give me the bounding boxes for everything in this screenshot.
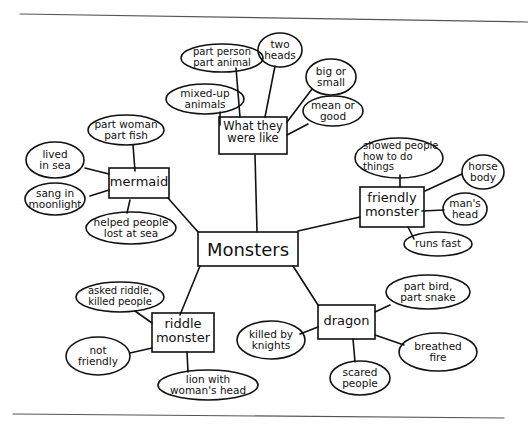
connector-mermaid-3 — [90, 190, 109, 196]
detail-mermaid-4: helped people lost at sea — [86, 217, 176, 239]
detail-friendly-3: man's head — [443, 198, 487, 220]
detail-what-4: big or small — [306, 66, 356, 88]
connector-mermaid-2 — [85, 168, 109, 174]
connector-center-dragon — [293, 266, 318, 305]
top-rule — [20, 14, 528, 22]
detail-mermaid-3: sang in moonlight — [25, 188, 85, 210]
connector-dragon-4 — [353, 339, 355, 362]
detail-dragon-2: killed by knights — [237, 329, 305, 351]
branch-label-what-they-were-like: What they were like — [219, 120, 287, 144]
center-label: Monsters — [198, 241, 298, 260]
bottom-rule — [13, 414, 504, 418]
mind-map-page: Monsters What they were like part person… — [0, 0, 528, 424]
connector-dragon-1 — [375, 305, 390, 312]
detail-riddle-3: lion with woman's head — [158, 374, 258, 396]
branch-label-friendly-monster: friendly monster — [360, 191, 424, 218]
branch-label-dragon: dragon — [318, 314, 375, 328]
connector-what-2 — [265, 66, 275, 117]
detail-dragon-1: part bird, part snake — [386, 281, 470, 303]
detail-what-5: mean or good — [303, 100, 363, 122]
detail-mermaid-2: lived in sea — [26, 149, 84, 171]
branch-label-riddle-monster: riddle monster — [152, 317, 214, 344]
connector-center-riddle — [180, 266, 200, 315]
connector-riddle-1 — [135, 311, 152, 323]
detail-what-3: mixed-up animals — [166, 88, 244, 110]
connector-center-friendly — [298, 217, 360, 231]
connector-friendly-2 — [425, 174, 462, 191]
connector-mermaid-4 — [127, 200, 130, 213]
connector-friendly-3 — [422, 210, 444, 211]
detail-friendly-2: horse body — [462, 161, 504, 183]
detail-dragon-4: scared people — [330, 367, 390, 389]
detail-what-1: part person part animal — [181, 47, 263, 68]
detail-riddle-2: not friendly — [66, 345, 130, 367]
detail-dragon-3: breathed fire — [399, 341, 477, 363]
connector-riddle-3 — [187, 352, 188, 372]
branch-label-mermaid: mermaid — [109, 175, 169, 189]
connector-mermaid-1 — [133, 145, 135, 171]
connector-what-5 — [287, 124, 308, 135]
connector-riddle-2 — [130, 348, 152, 353]
connector-center-what — [255, 155, 257, 232]
detail-what-2: two heads — [258, 39, 302, 61]
detail-friendly-4: runs fast — [404, 238, 472, 249]
detail-friendly-1: showed people how to do things — [355, 141, 443, 173]
detail-mermaid-1: part woman part fish — [88, 119, 164, 141]
detail-riddle-1: asked riddle, killed people — [76, 286, 164, 307]
